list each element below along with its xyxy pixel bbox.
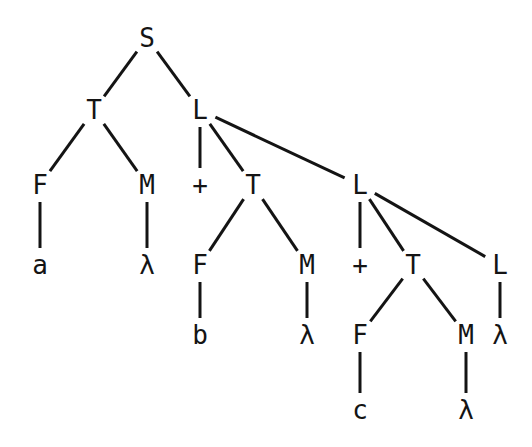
tree-node-m2: M: [299, 250, 315, 280]
tree-node-t2: T: [245, 170, 261, 200]
tree-node-lam3: λ: [492, 320, 508, 350]
tree-node-t3: T: [405, 250, 421, 280]
tree-edge: [50, 124, 84, 171]
tree-node-lam2: λ: [299, 320, 315, 350]
tree-node-l1: L: [192, 95, 208, 125]
tree-node-m3: M: [458, 320, 474, 350]
tree-node-p2: +: [352, 250, 368, 280]
tree-node-lam1: λ: [139, 250, 155, 280]
tree-node-b: b: [192, 320, 208, 350]
tree-edge: [375, 193, 485, 256]
tree-edge: [423, 279, 455, 322]
tree-node-m1: M: [139, 170, 155, 200]
tree-node-t1: T: [86, 95, 102, 125]
tree-edge: [104, 124, 137, 171]
tree-edge: [263, 199, 298, 251]
tree-edge: [104, 52, 137, 97]
tree-node-f3: F: [352, 320, 368, 350]
parse-tree-diagram: STLFM+TLaλFM+TLbλFMλcλ: [0, 0, 532, 447]
tree-edge: [215, 117, 344, 178]
tree-node-f2: F: [192, 250, 208, 280]
tree-node-c: c: [352, 395, 368, 425]
tree-edge: [209, 199, 243, 251]
tree-node-lam4: λ: [458, 395, 474, 425]
tree-edge: [210, 124, 243, 171]
tree-node-l3: L: [492, 250, 508, 280]
tree-node-s: S: [139, 23, 155, 53]
tree-node-l2: L: [352, 170, 368, 200]
tree-edges: [40, 52, 500, 393]
tree-node-a: a: [32, 250, 48, 280]
tree-nodes: STLFM+TLaλFM+TLbλFMλcλ: [32, 23, 508, 425]
tree-edge: [370, 279, 402, 322]
tree-edge: [157, 52, 190, 97]
tree-node-f1: F: [32, 170, 48, 200]
tree-node-p1: +: [192, 170, 208, 200]
